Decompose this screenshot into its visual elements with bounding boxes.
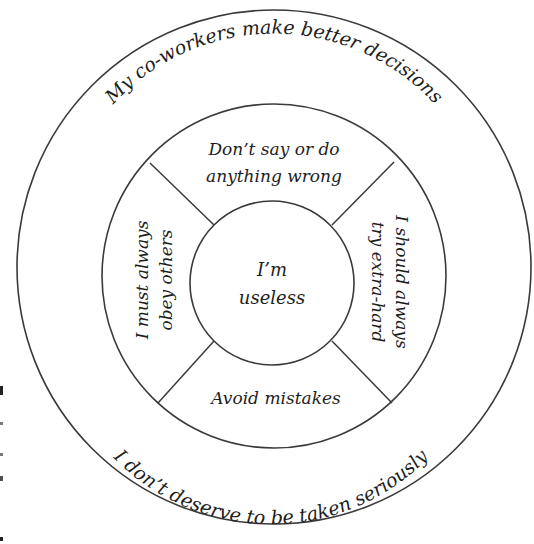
middle-left-line1: I must always bbox=[132, 220, 152, 340]
middle-top-line2: anything wrong bbox=[206, 166, 342, 186]
page-edge-mark bbox=[0, 476, 3, 481]
middle-left-line2: obey others bbox=[156, 229, 176, 330]
page-edge-mark bbox=[0, 537, 3, 541]
page-edge-mark bbox=[0, 453, 3, 456]
middle-right-line1: I should always bbox=[392, 214, 412, 349]
middle-bottom-line1: Avoid mistakes bbox=[209, 388, 341, 408]
divider-bottom-right bbox=[332, 341, 392, 403]
divider-top-left bbox=[150, 163, 214, 225]
page-edge-mark bbox=[0, 386, 3, 395]
divider-bottom-left bbox=[158, 341, 214, 403]
outer-top-label: My co-workers make better decisions bbox=[99, 16, 448, 108]
self-belief-diagram: My co-workers make better decisions I do… bbox=[0, 0, 534, 544]
core-line2: useless bbox=[239, 287, 305, 308]
page-edge-mark bbox=[0, 422, 3, 425]
middle-top-line1: Don’t say or do bbox=[207, 139, 339, 159]
middle-right-line2: try extra-hard bbox=[368, 222, 388, 343]
inner-circle bbox=[190, 201, 354, 365]
core-line1: I’m bbox=[256, 259, 287, 280]
outer-bottom-label: I don’t deserve to be taken seriously bbox=[110, 444, 432, 528]
